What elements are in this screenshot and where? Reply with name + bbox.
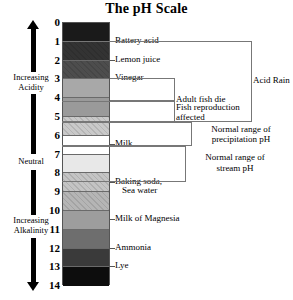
ph-tick-6: 6	[38, 130, 60, 141]
ph-tick-1: 1	[38, 36, 60, 47]
substance-label-sea-water: Sea water	[122, 185, 157, 196]
substance-label-milk-of-magnesia: Milk of Magnesia	[115, 213, 180, 224]
ph-band-12	[63, 249, 109, 268]
substance-label-sea-water-line1: Sea water	[122, 185, 157, 196]
substance-label-lye-line1: Lye	[115, 260, 129, 271]
substance-label-milk-of-magnesia-line1: Milk of Magnesia	[115, 213, 180, 224]
ph-tick-11: 11	[38, 224, 60, 235]
substance-label-lye: Lye	[115, 260, 129, 271]
ph-band-13	[63, 267, 109, 286]
ph-band-10	[63, 211, 109, 230]
ph-tick-7: 7	[38, 149, 60, 160]
bracket-normal-range-stream-ph	[62, 146, 186, 182]
ph-scale-diagram: The pH Scale Increasing Acidity Neutral …	[0, 0, 293, 300]
ph-tick-3: 3	[38, 73, 60, 84]
ph-band-9	[63, 192, 109, 211]
ph-tick-2: 2	[38, 55, 60, 66]
bracket-normal-range-precipitation-ph	[62, 122, 192, 146]
substance-label-ammonia-line1: Ammonia	[115, 242, 151, 253]
ph-tick-14: 14	[38, 280, 60, 291]
bracket-label-normal-range-precipitation-ph-line1: Normal range of	[193, 124, 289, 135]
bracket-label-normal-range-stream-ph-line2: stream pH	[187, 163, 283, 174]
bracket-label-normal-range-stream-ph: Normal range ofstream pH	[187, 152, 283, 173]
ph-tick-12: 12	[38, 243, 60, 254]
bracket-label-acid-rain: Acid Rain	[253, 75, 290, 86]
ph-tick-0: 0	[38, 17, 60, 28]
bracket-label-normal-range-precipitation-ph-line2: precipitation pH	[193, 134, 289, 145]
bracket-acid-rain	[62, 41, 252, 122]
bracket-label-normal-range-precipitation-ph: Normal range ofprecipitation pH	[193, 124, 289, 145]
ph-tick-5: 5	[38, 111, 60, 122]
ph-tick-4: 4	[38, 92, 60, 103]
bracket-label-acid-rain-line1: Acid Rain	[253, 75, 290, 86]
ph-tick-13: 13	[38, 261, 60, 272]
ph-tick-10: 10	[38, 205, 60, 216]
ph-tick-8: 8	[38, 167, 60, 178]
ph-band-0	[63, 23, 109, 42]
substance-label-ammonia: Ammonia	[115, 242, 151, 253]
ph-tick-9: 9	[38, 186, 60, 197]
ph-band-11	[63, 230, 109, 249]
ph-axis-ticks: 01234567891011121314	[34, 0, 60, 300]
bracket-label-normal-range-stream-ph-line1: Normal range of	[187, 152, 283, 163]
